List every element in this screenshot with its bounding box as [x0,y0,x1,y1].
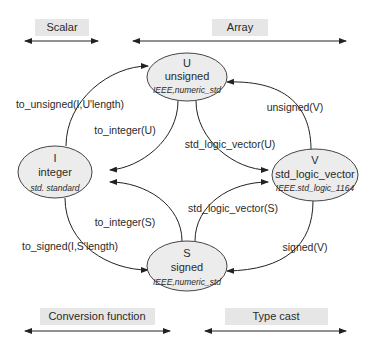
edge-label-slv-u: std_logic_vector(U) [185,138,275,150]
edge-label-to-signed: to_signed(I,S'length) [22,240,118,252]
node-integer: I integer std. standard [18,146,92,198]
array-category: Array [133,19,346,41]
vhdl-type-conversion-diagram: Scalar Array to_unsigned(I,U'length) to_… [0,0,378,355]
node-std-logic-vector: V std_logic_vector IEEE.std_logic_1164 [272,149,358,201]
scalar-label: Scalar [46,21,78,33]
edge-label-to-integer-s: to_integer(S) [95,216,156,228]
type-cast-label: Type cast [252,310,299,322]
conversion-function-category: Conversion function [25,308,170,331]
edge-integer-to-signed [65,198,148,270]
node-unsigned: U unsigned IEEE,numeric_std [147,53,227,101]
edge-signed-to-integer [110,182,182,241]
node-signed-library: IEEE,numeric_std [153,277,221,287]
array-label: Array [227,21,254,33]
node-integer-library: std. standard [30,183,79,193]
node-unsigned-symbol: U [183,57,191,69]
node-integer-type: integer [38,166,72,178]
edge-label-to-unsigned: to_unsigned(I,U'length) [16,98,124,110]
node-integer-symbol: I [53,152,56,164]
node-slv-library: IEEE.std_logic_1164 [276,183,355,193]
node-signed-type: signed [171,261,203,273]
scalar-category: Scalar [25,19,98,41]
node-slv-type: std_logic_vector [275,168,355,180]
node-slv-symbol: V [311,154,319,166]
conversion-function-label: Conversion function [48,310,145,322]
edge-label-signed-v: signed(V) [283,241,328,253]
type-cast-category: Type cast [205,308,346,331]
node-signed-symbol: S [183,247,190,259]
node-unsigned-library: IEEE,numeric_std [153,85,221,95]
edge-unsigned-to-slv [196,101,268,170]
edge-label-unsigned-v: unsigned(V) [267,101,324,113]
edge-label-slv-s: std_logic_vector(S) [188,202,278,214]
node-unsigned-type: unsigned [165,70,210,82]
edge-label-to-integer-u: to_integer(U) [94,124,155,136]
node-signed: S signed IEEE,numeric_std [147,241,227,291]
